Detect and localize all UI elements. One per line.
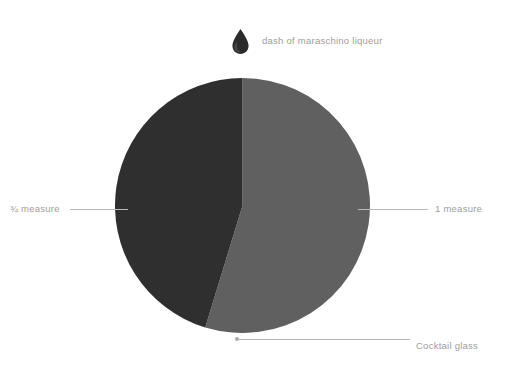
chart-canvas: dash of maraschino liqueur ¾ measure 1 m… — [0, 0, 507, 366]
callout-label-three-quarter-measure: ¾ measure — [10, 204, 60, 214]
pie-chart — [115, 78, 370, 333]
pie-chart-svg — [115, 78, 370, 333]
leader-line-left — [70, 209, 128, 210]
droplet-icon — [232, 29, 249, 54]
callout-label-one-measure: 1 measure — [435, 204, 482, 214]
leader-line-right — [358, 209, 428, 210]
maraschino-key-label: dash of maraschino liqueur — [262, 36, 383, 46]
leader-line-bottom — [238, 339, 410, 340]
callout-label-cocktail-glass: Cocktail glass — [416, 341, 478, 351]
maraschino-key: dash of maraschino liqueur — [232, 26, 402, 56]
